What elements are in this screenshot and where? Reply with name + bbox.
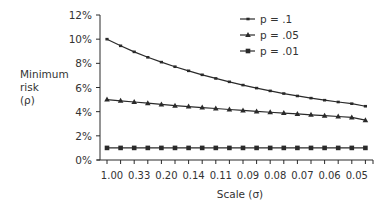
x-tick-label: 0.11: [210, 170, 232, 181]
legend-label: p = .05: [260, 29, 299, 41]
square-marker: [322, 146, 327, 151]
small-square-marker: [350, 102, 353, 105]
square-marker: [105, 146, 110, 151]
square-marker: [295, 146, 300, 151]
square-marker: [336, 146, 341, 151]
y-tick-label: 0%: [75, 154, 92, 166]
x-tick-label: 0.14: [182, 170, 204, 181]
small-square-marker: [269, 90, 272, 93]
small-square-marker: [309, 97, 312, 100]
small-square-marker: [364, 105, 367, 108]
small-square-marker: [119, 45, 122, 48]
x-tick-label: 0.09: [237, 170, 259, 181]
small-square-marker: [133, 51, 136, 54]
square-marker: [309, 146, 314, 151]
y-tick-label: 4%: [75, 106, 92, 118]
square-marker: [363, 146, 368, 151]
x-tick-label: 0.05: [346, 170, 368, 181]
square-marker: [350, 146, 355, 151]
x-tick-label: 0.07: [291, 170, 313, 181]
x-tick-label: 0.33: [128, 170, 150, 181]
square-marker: [118, 146, 123, 151]
legend-item: p = .01: [240, 45, 299, 57]
x-tick-label: 0.20: [155, 170, 177, 181]
small-square-marker: [296, 95, 299, 98]
triangle-marker: [104, 97, 110, 102]
x-tick-label: 0.08: [264, 170, 286, 181]
square-marker: [146, 146, 151, 151]
small-square-marker: [214, 77, 217, 80]
square-marker: [214, 146, 219, 151]
square-marker: [159, 146, 164, 151]
square-marker: [132, 146, 137, 151]
y-tick-label: 10%: [69, 33, 92, 45]
legend-label: p = .1: [260, 13, 292, 25]
series-3: [105, 146, 368, 151]
square-marker: [173, 146, 178, 151]
series-1: [105, 38, 367, 108]
legend: p = .1p = .05p = .01: [240, 13, 299, 57]
series-group: [104, 38, 368, 150]
y-tick-label: 8%: [75, 57, 92, 69]
legend-item: p = .05: [240, 29, 299, 41]
y-tick-label: 12%: [69, 9, 92, 21]
y-tick-label: 6%: [75, 82, 92, 94]
small-square-marker: [105, 38, 108, 41]
small-square-marker: [241, 84, 244, 87]
square-marker: [241, 146, 246, 151]
square-marker: [282, 146, 287, 151]
small-square-marker: [201, 74, 204, 77]
square-marker: [254, 146, 259, 151]
square-marker: [200, 146, 205, 151]
x-tick-label: 1.00: [101, 170, 123, 181]
small-square-marker: [282, 92, 285, 95]
x-axis-title: Scale (σ): [217, 188, 263, 200]
legend-label: p = .01: [260, 45, 299, 57]
square-marker: [227, 146, 232, 151]
square-marker: [246, 49, 251, 54]
axes: 0%2%4%6%8%10%12%1.000.330.200.140.110.09…: [69, 9, 373, 181]
small-square-marker: [246, 18, 249, 21]
legend-item: p = .1: [240, 13, 292, 25]
small-square-marker: [173, 65, 176, 68]
y-tick-label: 2%: [75, 130, 92, 142]
x-tick-label: 0.06: [318, 170, 340, 181]
square-marker: [268, 146, 273, 151]
small-square-marker: [255, 87, 258, 90]
small-square-marker: [228, 81, 231, 84]
small-square-marker: [146, 56, 149, 59]
square-marker: [186, 146, 191, 151]
series-line: [107, 39, 365, 106]
line-chart: 0%2%4%6%8%10%12%1.000.330.200.140.110.09…: [0, 0, 390, 211]
small-square-marker: [187, 70, 190, 73]
small-square-marker: [337, 101, 340, 104]
small-square-marker: [160, 61, 163, 64]
small-square-marker: [323, 99, 326, 102]
